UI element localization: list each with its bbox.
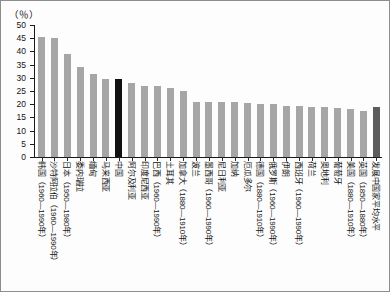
x-axis-category-label: 韩国（1960—1990年） xyxy=(37,161,46,287)
x-axis-category-label: 俄罗斯（1960—1990年） xyxy=(268,161,277,287)
bar xyxy=(77,67,84,157)
bar xyxy=(296,106,303,157)
y-axis-tick-label: 15 xyxy=(8,113,26,122)
bar xyxy=(154,86,161,157)
x-axis-category-label: 美国（1880—1910年） xyxy=(346,161,355,287)
x-axis-category-label: 葡萄牙 xyxy=(333,161,342,287)
bar xyxy=(270,104,277,157)
y-axis-tick xyxy=(30,78,34,79)
x-axis-category-label: 墨西哥（1960—1990年） xyxy=(204,161,213,287)
y-axis-tick xyxy=(30,144,34,145)
bar xyxy=(334,108,341,157)
x-axis-category-label: 加拿大（1880—1910年） xyxy=(178,161,187,287)
y-axis-tick xyxy=(30,104,34,105)
bar xyxy=(38,37,45,157)
x-axis-category-label: 中国 xyxy=(114,161,123,287)
bar xyxy=(308,107,315,157)
x-axis-category-label: 土耳其 xyxy=(165,161,174,287)
bar xyxy=(64,54,71,157)
x-axis-category-label: 马来西亚 xyxy=(101,161,110,287)
bar xyxy=(321,107,328,157)
bar xyxy=(115,79,122,157)
x-axis-category-label: 尼日利亚 xyxy=(217,161,226,287)
y-axis-tick-label: 10 xyxy=(8,127,26,136)
y-axis-tick xyxy=(30,38,34,39)
x-axis-category-labels: 韩国（1960—1990年）沙特阿拉伯（1960—1990年）日本（1950—1… xyxy=(34,161,382,289)
bar xyxy=(205,102,212,157)
x-axis-category-label: 波兰 xyxy=(191,161,200,287)
y-axis-tick-label: 25 xyxy=(8,87,26,96)
y-axis-tick xyxy=(30,25,34,26)
y-axis-tick xyxy=(30,91,34,92)
y-axis-tick-label: 35 xyxy=(8,61,26,70)
x-axis-category-label: 英国（1850—1880年） xyxy=(358,161,367,287)
y-axis-tick-label: 0 xyxy=(8,153,26,162)
bar xyxy=(231,102,238,157)
bar xyxy=(257,104,264,157)
bar xyxy=(167,88,174,157)
bar xyxy=(360,111,367,157)
bar xyxy=(141,86,148,157)
bar xyxy=(218,102,225,157)
x-axis-category-label: 沙特阿拉伯（1960—1990年） xyxy=(49,161,58,287)
x-axis-category-label: 德国（1880—1910年） xyxy=(255,161,264,287)
y-axis-tick-label: 50 xyxy=(8,21,26,30)
y-axis-unit-label: （％） xyxy=(9,7,40,21)
x-axis-category-label: 委内瑞拉 xyxy=(75,161,84,287)
y-axis-tick xyxy=(30,51,34,52)
plot-area xyxy=(34,25,382,158)
bar xyxy=(128,83,135,157)
bar xyxy=(347,109,354,157)
bar xyxy=(193,102,200,157)
bar xyxy=(102,79,109,157)
x-axis-category-label: 印度尼西亚 xyxy=(140,161,149,287)
chart-frame: （％） 50454035302520151050 韩国（1960—1990年）沙… xyxy=(0,0,390,292)
y-axis-tick-label: 20 xyxy=(8,100,26,109)
x-axis-category-label: 厄瓜多尔 xyxy=(243,161,252,287)
x-axis-category-label: 奥地利 xyxy=(320,161,329,287)
y-axis-tick xyxy=(30,65,34,66)
y-axis-tick-label: 45 xyxy=(8,34,26,43)
y-axis-tick-label: 5 xyxy=(8,140,26,149)
bar xyxy=(90,74,97,157)
bar xyxy=(283,106,290,157)
x-axis-category-label: 阿尔及利亚 xyxy=(127,161,136,287)
bar xyxy=(180,91,187,157)
x-axis-category-label: 缅甸 xyxy=(88,161,97,287)
x-axis-category-label: 巴西（1960—1990年） xyxy=(152,161,161,287)
x-axis-category-label: 西班牙（1960—1990年） xyxy=(294,161,303,287)
x-axis-category-label: 加纳 xyxy=(230,161,239,287)
x-axis-category-label: 发展中国家平均水平 xyxy=(371,161,380,287)
x-axis-category-label: 荷兰 xyxy=(307,161,316,287)
bar-series xyxy=(35,25,382,157)
x-axis-category-label: 伊朗 xyxy=(281,161,290,287)
bar xyxy=(51,38,58,157)
x-axis-category-label: 日本（1950—1980年） xyxy=(62,161,71,287)
y-axis-tick-label: 30 xyxy=(8,74,26,83)
bar xyxy=(244,103,251,157)
bar xyxy=(373,107,380,157)
y-axis-tick xyxy=(30,117,34,118)
y-axis-tick xyxy=(30,131,34,132)
y-axis-tick-label: 40 xyxy=(8,47,26,56)
